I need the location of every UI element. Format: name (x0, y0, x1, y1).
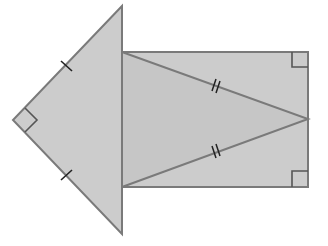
diagram-canvas (0, 0, 328, 246)
geometry-diagram (0, 0, 328, 246)
left-right-triangle (13, 6, 122, 234)
